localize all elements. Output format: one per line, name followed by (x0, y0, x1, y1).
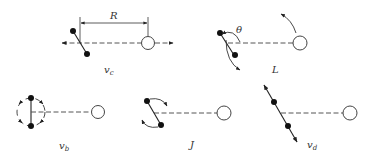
panel-label-J: J (188, 139, 195, 150)
rotation-arrowhead-bl (19, 120, 22, 123)
mass-top (144, 98, 150, 104)
spin-arrow-bottom (142, 120, 158, 127)
panel-vd: vd (264, 85, 357, 152)
panel-J: J (142, 98, 231, 150)
angle-label: θ (236, 24, 242, 35)
orbit-arrow (281, 14, 296, 33)
rotation-arrowhead-tr (40, 101, 43, 104)
target-circle (142, 37, 155, 50)
rotation-arrowhead-tl (19, 101, 22, 104)
mass-bottom (285, 123, 291, 129)
distance-label: R (109, 10, 118, 21)
target-circle (92, 106, 105, 119)
panel-label-vc: vc (104, 64, 114, 77)
mass-bottom (28, 123, 34, 129)
panel-label-vb: vb (59, 140, 70, 153)
target-circle (343, 106, 357, 120)
spin-arrow-top (150, 99, 167, 106)
panel-label-L: L (271, 64, 279, 75)
mass-bottom (84, 51, 90, 57)
panel-vc: R vc (62, 10, 173, 77)
target-circle (217, 106, 231, 120)
rotation-arrowhead-br (40, 120, 43, 123)
mass-top (28, 95, 34, 101)
mass-bottom (232, 52, 238, 58)
panel-label-vd: vd (307, 139, 318, 152)
mass-top (70, 28, 76, 34)
target-circle (293, 36, 307, 50)
panel-vb: vb (17, 95, 105, 153)
mass-top (271, 99, 277, 105)
mass-top (217, 30, 223, 36)
mass-bottom (158, 122, 164, 128)
panel-L: θ L (217, 14, 307, 75)
diagram-canvas: R vc θ L vb (0, 0, 369, 156)
